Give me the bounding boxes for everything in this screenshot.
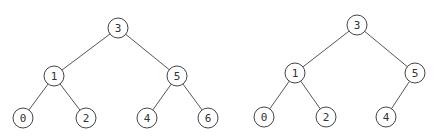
tree-node-4: 4 — [137, 108, 157, 128]
tree-node-0: 0 — [13, 108, 33, 128]
tree-node-4: 4 — [376, 107, 396, 127]
tree-node-3: 3 — [347, 15, 367, 35]
node-label: 6 — [205, 112, 212, 125]
tree-edge — [301, 81, 320, 109]
tree-edge — [392, 81, 410, 108]
tree-node-6: 6 — [198, 108, 218, 128]
node-label: 2 — [83, 112, 90, 125]
tree-edge — [29, 84, 48, 110]
left-tree: 3150246 — [13, 18, 218, 128]
node-label: 4 — [144, 112, 151, 125]
tree-edge — [270, 81, 289, 109]
tree-node-3: 3 — [108, 18, 128, 38]
node-label: 5 — [174, 70, 181, 83]
node-label: 3 — [115, 22, 122, 35]
tree-node-0: 0 — [254, 107, 274, 127]
tree-node-5: 5 — [167, 66, 187, 86]
tree-node-1: 1 — [285, 63, 305, 83]
tree-node-5: 5 — [405, 63, 425, 83]
binary-tree-diagram: 3150246315024 — [0, 0, 440, 140]
tree-node-2: 2 — [316, 107, 336, 127]
node-label: 0 — [20, 112, 27, 125]
tree-edge — [153, 84, 171, 110]
node-label: 4 — [383, 111, 390, 124]
tree-edge — [60, 84, 80, 110]
node-label: 1 — [51, 70, 58, 83]
tree-edge — [183, 84, 202, 110]
node-label: 2 — [323, 111, 330, 124]
tree-edge — [365, 31, 408, 66]
node-label: 3 — [354, 19, 361, 32]
tree-node-2: 2 — [76, 108, 96, 128]
node-label: 0 — [261, 111, 268, 124]
tree-edge — [62, 34, 110, 70]
right-tree: 315024 — [254, 15, 425, 127]
node-label: 1 — [292, 67, 299, 80]
tree-edge — [303, 31, 349, 67]
tree-edge — [126, 34, 169, 69]
tree-node-1: 1 — [44, 66, 64, 86]
node-label: 5 — [412, 67, 419, 80]
